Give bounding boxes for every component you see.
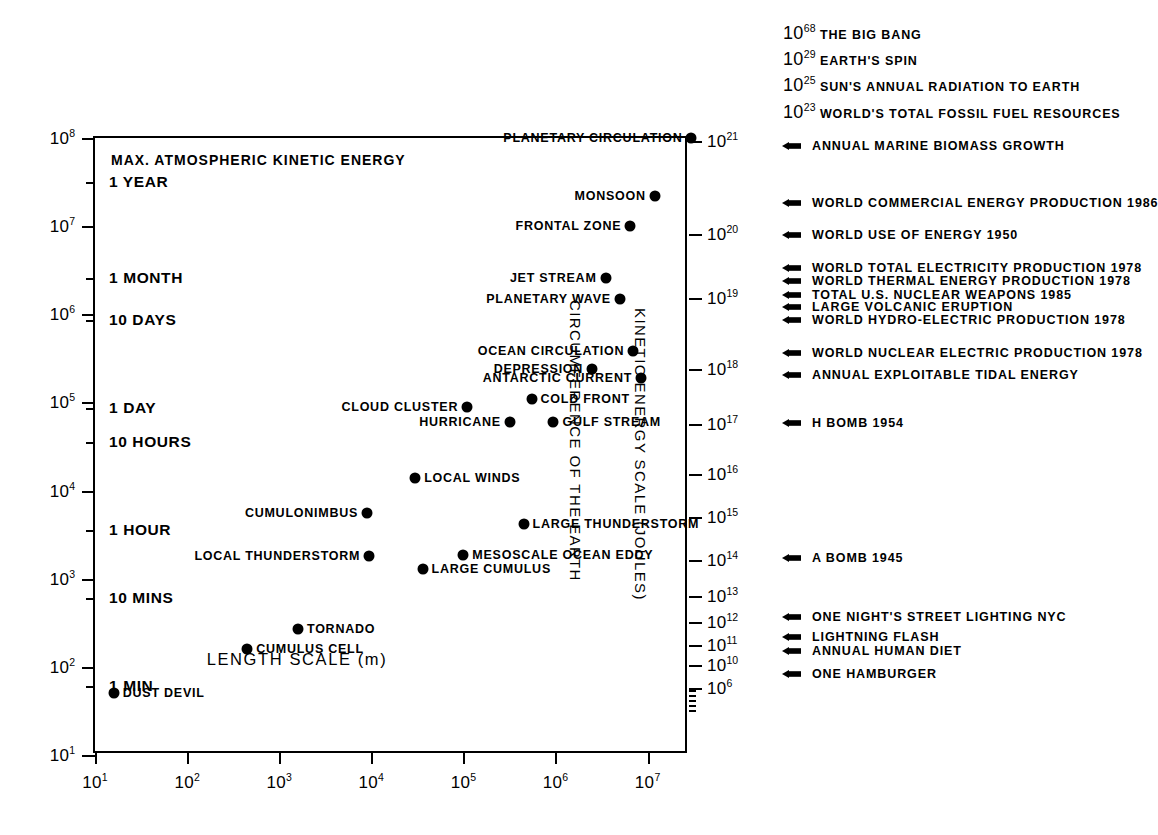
y-tick-minor [86,442,95,444]
legend-item-label: WORLD HYDRO-ELECTRIC PRODUCTION 1978 [812,313,1126,327]
data-point-label-jet-stream: JET STREAM [510,271,597,285]
left-arrow-icon [782,230,801,240]
x-tick-major [371,751,373,764]
right-tick-label: 1012 [707,611,738,633]
right-tick-label: 1021 [707,130,738,152]
data-point-dust-devil [108,688,119,699]
x-tick-major [95,751,97,764]
legend-item-label: ANNUAL MARINE BIOMASS GROWTH [812,139,1065,153]
header-energy-label: THE BIG BANG [820,28,922,42]
legend-item: A BOMB 1945 [782,551,903,565]
time-annotation-1-day: 1 DAY [109,399,156,417]
left-arrow-icon [782,370,801,380]
header-energy-item: 1029EARTH'S SPIN [783,48,918,70]
data-point-cumulus-cell [242,643,253,654]
x-tick-label: 102 [174,771,199,793]
y-tick-label: 104 [50,480,81,502]
right-tick-major [689,596,702,598]
data-point-planetary-wave [614,293,625,304]
right-tick-label: 1013 [707,585,738,607]
x-tick-label: 106 [543,771,568,793]
legend-item-label: WORLD THERMAL ENERGY PRODUCTION 1978 [812,274,1131,288]
y-tick-major [82,226,95,228]
legend-item-label: WORLD NUCLEAR ELECTRIC PRODUCTION 1978 [812,346,1143,360]
right-tick-label: 1011 [707,634,737,656]
data-point-frontal-zone [625,221,636,232]
left-arrow-icon [782,141,801,151]
data-point-gulf-stream [548,416,559,427]
x-tick-major [463,751,465,764]
data-point-label-hurricane: HURRICANE [419,415,501,429]
right-tick-minor [689,710,696,712]
right-tick-major [689,424,702,426]
data-point-label-tornado: TORNADO [307,622,375,636]
right-tick-minor [689,700,696,702]
time-annotation-10-days: 10 DAYS [109,311,176,329]
data-point-cumulonimbus [362,508,373,519]
data-point-local-winds [410,472,421,483]
y-tick-label: 102 [50,656,81,678]
data-point-large-thunderstorm [518,518,529,529]
time-annotation-10-mins: 10 MINS [109,589,174,607]
legend-item: WORLD HYDRO-ELECTRIC PRODUCTION 1978 [782,313,1126,327]
y-tick-label: 105 [50,392,81,414]
legend-item: WORLD THERMAL ENERGY PRODUCTION 1978 [782,274,1131,288]
legend-item-label: WORLD TOTAL ELECTRICITY PRODUCTION 1978 [812,261,1142,275]
data-point-label-mesoscale-ocean-eddy: MESOSCALE OCEAN EDDY [472,548,653,562]
right-tick-major [689,369,702,371]
legend-item-label: ANNUAL HUMAN DIET [812,644,962,658]
legend-item: WORLD USE OF ENERGY 1950 [782,228,1018,242]
right-tick-label: 1015 [707,506,738,528]
y-tick-minor [86,598,95,600]
legend-item: LARGE VOLCANIC ERUPTION [782,300,1013,314]
y-tick-minor [86,408,95,410]
data-point-label-local-winds: LOCAL WINDS [424,471,520,485]
legend-item-label: H BOMB 1954 [812,416,904,430]
y-tick-major [82,667,95,669]
data-point-label-large-thunderstorm: LARGE THUNDERSTORM [533,517,700,531]
left-arrow-icon [782,669,801,679]
time-annotation-1-hour: 1 HOUR [109,521,171,539]
legend-item-label: WORLD COMMERCIAL ENERGY PRODUCTION 1986 [812,196,1158,210]
data-point-label-cloud-cluster: CLOUD CLUSTER [341,400,458,414]
data-point-cloud-cluster [462,402,473,413]
data-point-tornado [292,623,303,634]
right-tick-label: 1010 [707,654,738,676]
data-point-label-ocean-circulation: OCEAN CIRCULATION [478,344,625,358]
data-point-label-dust-devil: DUST DEVIL [123,686,205,700]
y-tick-label: 107 [50,215,81,237]
x-tick-major [648,751,650,764]
y-tick-major [82,314,95,316]
legend-item-label: ONE HAMBURGER [812,667,937,681]
left-arrow-icon [782,263,801,273]
y-tick-minor [86,320,95,322]
header-energy-label: WORLD'S TOTAL FOSSIL FUEL RESOURCES [820,107,1121,121]
legend-item-label: LARGE VOLCANIC ERUPTION [812,300,1013,314]
data-point-label-local-thunderstorm: LOCAL THUNDERSTORM [194,549,360,563]
left-arrow-icon [782,290,801,300]
left-arrow-icon [782,276,801,286]
header-energy-label: EARTH'S SPIN [820,54,918,68]
right-tick-major [689,298,702,300]
data-point-label-planetary-circulation: PLANETARY CIRCULATION [503,131,682,145]
header-energy-label: SUN'S ANNUAL RADIATION TO EARTH [820,80,1080,94]
legend-item: WORLD TOTAL ELECTRICITY PRODUCTION 1978 [782,261,1142,275]
time-annotation-1-month: 1 MONTH [109,269,183,287]
left-arrow-icon [782,315,801,325]
data-point-mesoscale-ocean-eddy [458,550,469,561]
data-point-monsoon [649,190,660,201]
y-tick-major [82,579,95,581]
data-point-large-cumulus [417,563,428,574]
right-tick-major [689,560,702,562]
header-energy-exponent: 1029 [783,49,816,69]
legend-item: H BOMB 1954 [782,416,904,430]
legend-item: WORLD COMMERCIAL ENERGY PRODUCTION 1986 [782,196,1158,210]
y-tick-minor [86,278,95,280]
y-tick-minor [86,530,95,532]
time-annotation-10-hours: 10 HOURS [109,433,191,451]
x-tick-label: 107 [635,771,660,793]
legend-item-label: LIGHTNING FLASH [812,630,939,644]
right-tick-major [689,665,702,667]
plot-area: MAX. ATMOSPHERIC KINETIC ENERGY 10810710… [93,136,687,753]
